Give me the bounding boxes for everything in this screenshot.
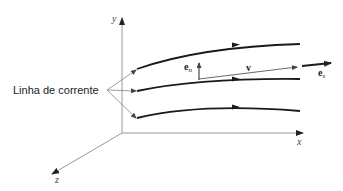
streamline-top xyxy=(137,44,300,69)
axes: y x z xyxy=(52,13,303,185)
y-axis-label: y xyxy=(111,13,117,24)
tangential-vector-label: es xyxy=(318,67,325,80)
normal-vector-label: en xyxy=(184,61,192,74)
flow-arrow-top xyxy=(232,43,240,48)
tangential-vector xyxy=(302,63,331,66)
streamline-middle xyxy=(137,79,300,91)
vectors xyxy=(199,63,331,80)
z-axis xyxy=(52,133,122,174)
streamline-diagram: y x z Linha de corrente en v es xyxy=(0,0,343,191)
x-axis-label: x xyxy=(296,136,302,147)
streamline-bottom xyxy=(137,108,300,118)
velocity-vector-label: v xyxy=(246,62,251,73)
streamline-label: Linha de corrente xyxy=(13,84,99,96)
streamlines xyxy=(137,43,300,119)
z-axis-label: z xyxy=(54,174,59,185)
